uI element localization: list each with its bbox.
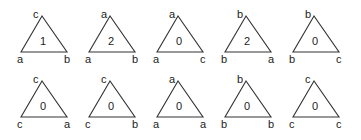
triangle: c c b 0 — [85, 73, 138, 130]
right-vertex-label: a — [268, 53, 275, 65]
triangle-labeling-diagram: c a b 1 a a b 2 a a c 0 b b a 2 b — [0, 0, 361, 140]
top-vertex-label: c — [101, 73, 107, 85]
top-vertex-label: b — [305, 8, 311, 20]
triangle: c c c 0 — [289, 73, 342, 130]
triangle-count: 1 — [40, 35, 46, 47]
triangle-row-1: c a b 1 a a b 2 a a c 0 b b a 2 b — [17, 8, 342, 65]
right-vertex-label: a — [200, 118, 207, 130]
top-vertex-label: a — [169, 73, 176, 85]
triangle: a a a 0 — [153, 73, 207, 130]
left-vertex-label: c — [17, 118, 23, 130]
triangle: b b a 2 — [221, 8, 275, 65]
top-vertex-label: a — [101, 8, 108, 20]
left-vertex-label: c — [85, 118, 91, 130]
triangle: c c a 0 — [17, 73, 71, 130]
right-vertex-label: c — [336, 53, 342, 65]
top-vertex-label: c — [305, 73, 311, 85]
triangle-row-2: c c a 0 c c b 0 a a a 0 b b b 0 c — [17, 73, 342, 130]
left-vertex-label: a — [17, 53, 24, 65]
left-vertex-label: a — [153, 53, 160, 65]
right-vertex-label: c — [200, 53, 206, 65]
triangle: b b c 0 — [289, 8, 342, 65]
right-vertex-label: b — [64, 53, 70, 65]
left-vertex-label: c — [289, 118, 295, 130]
left-vertex-label: b — [221, 53, 227, 65]
top-vertex-label: a — [169, 8, 176, 20]
triangle: a a c 0 — [153, 8, 206, 65]
top-vertex-label: c — [33, 73, 39, 85]
left-vertex-label: b — [289, 53, 295, 65]
triangle-count: 2 — [108, 35, 114, 47]
triangle-count: 0 — [176, 35, 182, 47]
left-vertex-label: b — [221, 118, 227, 130]
right-vertex-label: b — [268, 118, 274, 130]
top-vertex-label: c — [33, 8, 39, 20]
right-vertex-label: a — [64, 118, 71, 130]
triangle-count: 0 — [312, 100, 318, 112]
left-vertex-label: a — [153, 118, 160, 130]
triangle-count: 0 — [244, 100, 250, 112]
triangle-count: 0 — [176, 100, 182, 112]
right-vertex-label: b — [132, 53, 138, 65]
left-vertex-label: a — [85, 53, 92, 65]
top-vertex-label: b — [237, 8, 243, 20]
right-vertex-label: b — [132, 118, 138, 130]
triangle: b b b 0 — [221, 73, 274, 130]
triangle-count: 0 — [40, 100, 46, 112]
triangle-count: 2 — [244, 35, 250, 47]
right-vertex-label: c — [336, 118, 342, 130]
top-vertex-label: b — [237, 73, 243, 85]
triangle: c a b 1 — [17, 8, 70, 65]
triangle-count: 0 — [312, 35, 318, 47]
triangle: a a b 2 — [85, 8, 138, 65]
triangle-count: 0 — [108, 100, 114, 112]
